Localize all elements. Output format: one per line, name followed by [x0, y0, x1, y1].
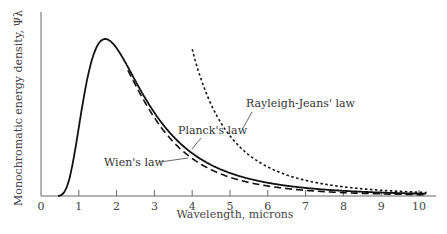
- planck-curve: [58, 39, 426, 196]
- x-tick-label: 3: [151, 200, 158, 213]
- curves: [58, 39, 427, 196]
- y-axis-title: Monochromatic energy density, Ψλ: [12, 10, 25, 206]
- rayleigh-jeans-curve: [192, 49, 426, 192]
- svg-text:Rayleigh-Jeans' law: Rayleigh-Jeans' law: [246, 97, 355, 110]
- x-tick-label: 0: [38, 200, 45, 213]
- svg-text:Planck's law: Planck's law: [178, 124, 248, 137]
- rayleigh-jeans-annotation: Rayleigh-Jeans' law: [243, 97, 355, 128]
- x-axis-title: Wavelength, microns: [176, 208, 293, 221]
- wien-annotation: Wien's law: [104, 156, 188, 169]
- x-tick-label: 7: [302, 200, 309, 213]
- x-tick-label: 8: [340, 200, 347, 213]
- x-tick-label: 1: [75, 200, 82, 213]
- wien-curve: [128, 70, 427, 194]
- x-tick-label: 9: [378, 200, 385, 213]
- blackbody-chart: 012345678910 Wavelength, microns Monochr…: [0, 0, 447, 234]
- svg-text:Wien's law: Wien's law: [104, 156, 164, 169]
- x-tick-label: 10: [412, 200, 426, 213]
- x-tick-label: 2: [113, 200, 120, 213]
